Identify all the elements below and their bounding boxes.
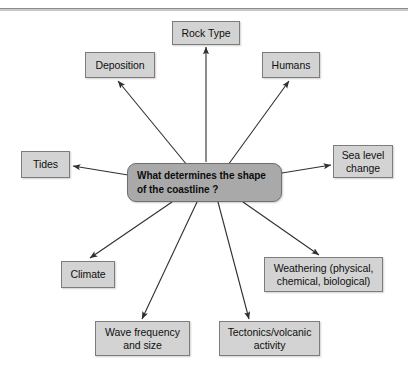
node-sea-level-change[interactable]: Sea level change [333,145,393,178]
node-tides[interactable]: Tides [21,151,70,178]
arrow-center-to-tides [73,166,128,175]
arrow-center-to-weathering [243,202,319,255]
node-climate[interactable]: Climate [61,261,115,288]
diagram-canvas: Rock Type Deposition Humans Tides Sea le… [0,0,408,376]
arrow-center-to-humans [228,81,289,165]
node-humans[interactable]: Humans [262,52,320,78]
node-wave-frequency[interactable]: Wave frequency and size [95,321,190,356]
arrow-center-to-wave-frequency [142,202,197,319]
arrow-center-to-deposition [118,81,187,165]
node-rock-type[interactable]: Rock Type [172,21,240,45]
node-weathering[interactable]: Weathering (physical, chemical, biologic… [264,257,383,292]
node-tectonics[interactable]: Tectonics/volcanic activity [219,321,320,356]
arrow-center-to-sea-level-change [282,165,331,173]
arrow-center-to-tectonics [218,202,249,319]
arrow-center-to-climate [90,202,172,258]
node-center-question[interactable]: What determines the shape of the coastli… [127,163,282,202]
node-deposition[interactable]: Deposition [85,52,155,78]
